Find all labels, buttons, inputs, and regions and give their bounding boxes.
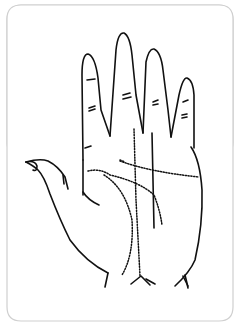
thumb-crease	[63, 175, 64, 184]
index-joint-1	[87, 79, 95, 80]
frame-outline	[7, 5, 233, 321]
palm-diagram	[0, 0, 238, 326]
